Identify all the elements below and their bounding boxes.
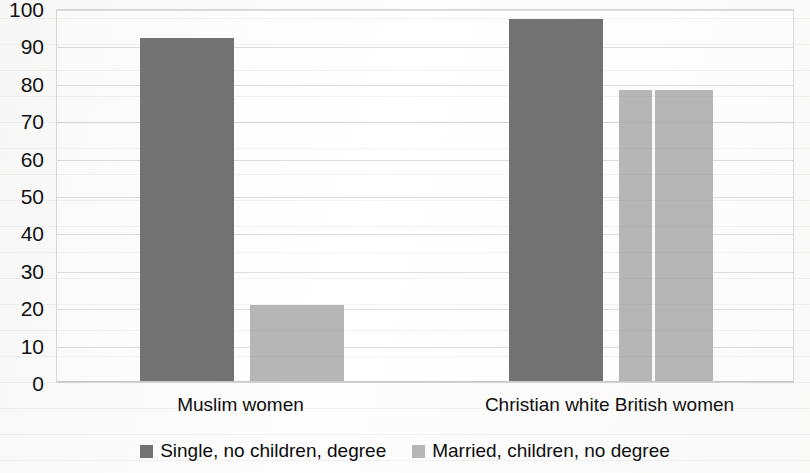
y-axis-tick-label: 90 <box>0 36 44 57</box>
y-axis-tick-label: 70 <box>0 111 44 132</box>
y-axis-tick-label: 100 <box>0 0 44 20</box>
y-axis: 1009080706050403020100 <box>0 9 48 383</box>
legend-item: Single, no children, degree <box>140 440 386 462</box>
x-axis-category-label: Christian white British women <box>425 392 794 418</box>
x-axis-category-labels: Muslim womenChristian white British wome… <box>56 392 794 422</box>
y-axis-tick-label: 10 <box>0 335 44 356</box>
y-axis-tick-label: 30 <box>0 260 44 281</box>
y-axis-tick-label: 0 <box>0 373 44 394</box>
y-axis-tick-label: 80 <box>0 73 44 94</box>
legend-item: Married, children, no degree <box>412 440 670 462</box>
y-axis-tick-label: 40 <box>0 223 44 244</box>
y-axis-tick-label: 20 <box>0 298 44 319</box>
legend-label: Married, children, no degree <box>432 440 670 462</box>
gridline <box>57 10 793 11</box>
plot-area <box>56 9 794 383</box>
legend-swatch-icon <box>412 445 425 458</box>
bar <box>509 19 603 382</box>
x-axis-line <box>57 381 793 382</box>
legend-label: Single, no children, degree <box>160 440 386 462</box>
bar <box>140 38 234 382</box>
scan-artifact-line <box>652 90 655 382</box>
legend-swatch-icon <box>140 445 153 458</box>
y-axis-tick-label: 60 <box>0 148 44 169</box>
bar <box>250 305 344 382</box>
bar-chart: 1009080706050403020100 Muslim womenChris… <box>0 0 810 473</box>
y-axis-tick-label: 50 <box>0 186 44 207</box>
chart-legend: Single, no children, degreeMarried, chil… <box>0 440 810 462</box>
bar <box>619 90 713 382</box>
x-axis-category-label: Muslim women <box>56 392 425 418</box>
